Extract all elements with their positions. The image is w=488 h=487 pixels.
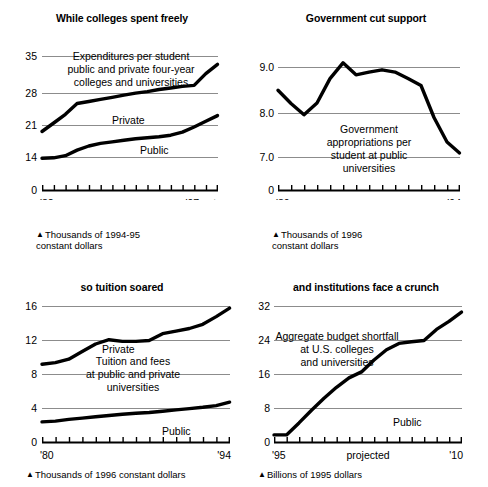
chart-plot-area: 35 28 21 14 0 Expenditures per student p… [0,0,244,200]
y-tick-label: 0 [268,184,274,196]
chart-footnote: ▲Thousands of 1996 constant dollars [26,457,256,480]
line-chart-svg: 35 28 21 14 0 Expenditures per student p… [0,0,244,200]
annotation-line: at public and private [86,368,180,380]
triangle-marker: ▲ [36,230,44,239]
x-axis-tick-labels: '82 '97 est. [40,197,219,200]
annotation-line: student at public [331,149,407,161]
panel-government-cut-support: Government cut support 9.0 8.0 7.0 0 Gov… [244,0,488,244]
y-tick-label: 35 [25,50,37,62]
y-tick-label: 9.0 [259,61,274,73]
annotation-line: universities [107,381,160,393]
y-tick-label: 8 [31,368,37,380]
triangle-marker: ▲ [258,470,266,479]
x-axis-ticks [279,185,460,190]
annotation-line: appropriations per [327,136,412,148]
chart-plot-area: 32 24 16 8 0 Aggregate budget shortfall … [244,266,488,466]
charts-grid: While colleges spent freely 35 28 21 14 … [0,0,488,487]
chart-plot-area: 16 12 8 4 0 Tuition and fees at public a… [0,266,244,466]
series-label-public: Public [162,425,191,437]
y-tick-label: 28 [25,87,37,99]
chart-footnote: ▲Billions of 1995 dollars [258,457,478,480]
x-axis-ticks [275,437,462,442]
chart-annotation: Aggregate budget shortfall at U.S. colle… [275,330,398,368]
y-axis-tick-labels: 9.0 8.0 7.0 0 [259,61,274,196]
series-label-public: Public [140,144,169,156]
footnote-text: Thousands of 1996 constant dollars [35,469,186,480]
y-tick-label: 14 [25,151,37,163]
y-tick-label: 0 [31,184,37,196]
y-axis-tick-labels: 32 24 16 8 0 [258,300,270,448]
y-tick-label: 0 [31,436,37,448]
y-tick-label: 16 [25,300,37,312]
x-tick-label-start: '82 [40,197,54,200]
panel-institutions-crunch: and institutions face a crunch 32 24 16 … [244,244,488,487]
chart-plot-area: 9.0 8.0 7.0 0 Government appropriations … [244,0,488,200]
panel-tuition-soared: so tuition soared 16 12 8 4 0 Tuition [0,244,244,487]
chart-annotation: Tuition and fees at public and private u… [86,355,180,393]
x-axis-ticks [43,185,218,190]
y-axis-tick-labels: 16 12 8 4 0 [25,300,37,448]
annotation-line: Government [340,123,398,135]
x-axis-tick-labels: '80 '94 [276,197,461,200]
annotation-line: colleges and universities [74,76,188,88]
line-chart-svg: 16 12 8 4 0 Tuition and fees at public a… [0,266,244,466]
triangle-marker: ▲ [272,230,280,239]
annotation-line: at U.S. colleges [300,343,374,355]
y-tick-label: 21 [25,119,37,131]
x-tick-label-end: '94 [447,197,461,200]
y-tick-label: 8 [264,402,270,414]
y-tick-label: 8.0 [259,107,274,119]
footnote-text: Billions of 1995 dollars [267,469,362,480]
y-tick-label: 16 [258,368,270,380]
y-tick-label: 32 [258,300,270,312]
annotation-line: and universities [301,356,374,368]
annotation-line: Aggregate budget shortfall [275,330,398,342]
series-line-public [42,402,230,422]
y-tick-label: 12 [25,334,37,346]
annotation-line: Tuition and fees [96,355,170,367]
series-labels: Public [393,416,422,428]
chart-annotation: Government appropriations per student at… [327,123,412,174]
chart-annotation: Expenditures per student public and priv… [67,50,195,88]
series-label-private: Private [112,114,145,126]
line-chart-svg: 9.0 8.0 7.0 0 Government appropriations … [244,0,488,200]
annotation-line: Expenditures per student [73,50,190,62]
line-chart-svg: 32 24 16 8 0 Aggregate budget shortfall … [244,266,488,466]
panel-colleges-spent-freely: While colleges spent freely 35 28 21 14 … [0,0,244,244]
y-tick-label: 4 [31,402,37,414]
annotation-line: universities [343,162,396,174]
y-tick-label: 24 [258,334,270,346]
x-axis-ticks [43,437,230,442]
x-tick-label-start: '80 [276,197,290,200]
y-tick-label: 7.0 [259,151,274,163]
triangle-marker: ▲ [26,470,34,479]
series-label-private: Private [102,343,135,355]
y-tick-label: 0 [264,436,270,448]
annotation-line: public and private four-year [67,63,195,75]
y-axis-tick-labels: 35 28 21 14 0 [25,50,37,196]
series-label-public: Public [393,416,422,428]
x-tick-label-end: '97 est. [185,197,219,200]
